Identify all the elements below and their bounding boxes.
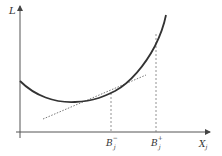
diagram-canvas: L Xj B−j B+j (0, 0, 222, 156)
b-minus-label: B−j (105, 134, 118, 151)
b-plus-label: B+j (150, 134, 163, 151)
cost-curve (20, 15, 166, 102)
y-axis-label: L (8, 5, 16, 16)
tangent-line (43, 75, 146, 119)
x-axis-label: Xj (198, 139, 207, 151)
